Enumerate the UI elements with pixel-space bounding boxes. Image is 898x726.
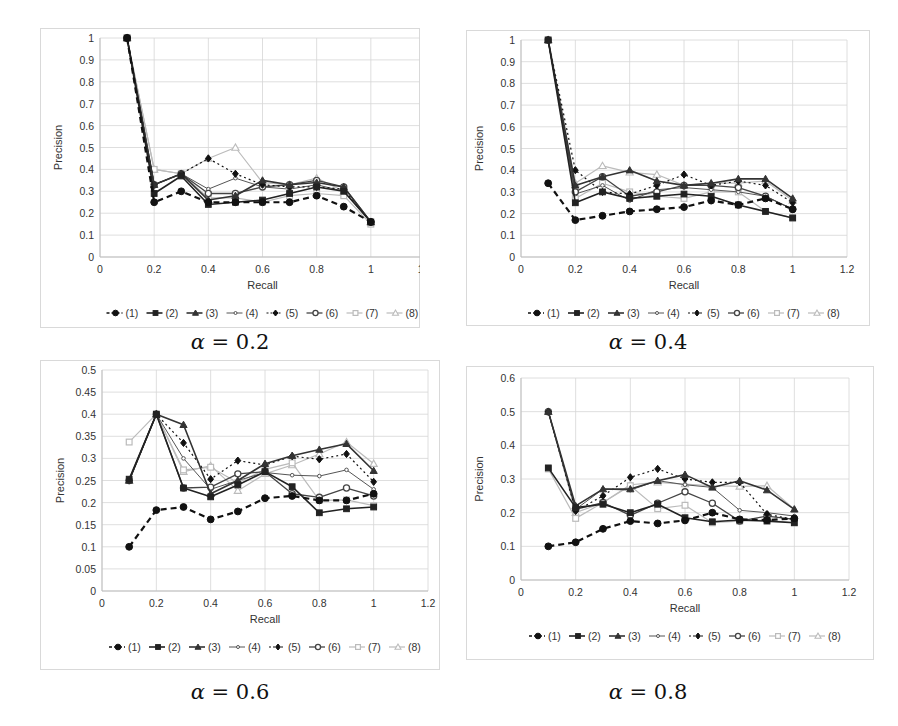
x-tick-label: 0.8 [731, 263, 746, 275]
y-tick-label: 0.5 [500, 143, 515, 155]
x-tick-label: 0 [99, 597, 105, 609]
legend-label: (1) [547, 307, 560, 319]
series-4 [127, 412, 375, 491]
y-tick-label: 0.4 [81, 408, 96, 420]
y-tick-label: 0 [88, 251, 94, 263]
y-tick-label: 0.3 [500, 186, 515, 198]
gridlines [521, 40, 847, 257]
y-tick-label: 0.5 [81, 364, 96, 376]
legend-label: (2) [166, 307, 179, 319]
legend-item-2: (2) [569, 630, 601, 642]
chart-panel-alpha-0-2: 00.10.20.30.40.50.60.70.80.9100.20.40.60… [40, 28, 420, 328]
legend-label: (6) [748, 630, 761, 642]
legend-item-7: (7) [349, 641, 381, 653]
chart-panel-alpha-0-8: 00.10.20.30.40.50.600.20.40.60.811.2Reca… [466, 366, 874, 660]
y-tick-label: 0.1 [81, 541, 96, 553]
x-tick-label: 0 [518, 586, 524, 598]
legend-label: (2) [588, 630, 601, 642]
y-tick-label: 0.05 [76, 563, 97, 575]
legend-item-5: (5) [688, 307, 720, 319]
x-tick-label: 0.2 [568, 263, 583, 275]
y-axis-ticks: 00.050.10.150.20.250.30.350.40.450.5 [76, 364, 97, 597]
legend-item-1: (1) [109, 641, 141, 653]
x-axis-ticks: 00.20.40.60.811.2 [97, 263, 420, 275]
y-tick-label: 0.9 [79, 54, 94, 66]
x-tick-label: 1.2 [840, 263, 855, 275]
legend-label: (8) [827, 307, 840, 319]
y-tick-label: 0.5 [500, 406, 515, 418]
y-tick-label: 0.1 [500, 229, 515, 241]
y-tick-label: 0.7 [500, 99, 515, 111]
legend-label: (4) [668, 630, 681, 642]
legend: (1)(2)(3)(4)(5)(6)(7)(8) [107, 307, 419, 319]
alpha-value: = 0.6 [212, 680, 270, 704]
legend-item-6: (6) [307, 307, 339, 319]
legend-label: (7) [366, 307, 379, 319]
x-tick-label: 0 [97, 263, 103, 275]
y-axis-ticks: 00.10.20.30.40.50.60.70.80.91 [500, 34, 515, 263]
legend-label: (1) [126, 307, 139, 319]
legend-label: (7) [368, 641, 381, 653]
x-tick-label: 1.2 [421, 597, 436, 609]
series-3 [126, 411, 378, 497]
x-tick-label: 0.2 [568, 586, 583, 598]
legend-label: (6) [747, 307, 760, 319]
series-3 [123, 34, 374, 224]
y-tick-label: 0.7 [79, 98, 94, 110]
y-tick-label: 0.2 [79, 207, 94, 219]
legend-item-5: (5) [269, 641, 301, 653]
legend-label: (3) [206, 307, 219, 319]
legend-item-3: (3) [187, 307, 219, 319]
precision-recall-chart: 00.050.10.150.20.250.30.350.40.450.500.2… [40, 360, 440, 670]
alpha-symbol: α [609, 330, 623, 354]
y-tick-label: 0.35 [76, 430, 97, 442]
series-6 [545, 37, 796, 212]
x-tick-label: 1.2 [418, 263, 420, 275]
legend-item-7: (7) [347, 307, 379, 319]
series-6 [124, 35, 374, 225]
x-tick-label: 0.6 [678, 586, 693, 598]
y-tick-label: 0 [90, 585, 96, 597]
y-tick-label: 0.2 [81, 497, 96, 509]
legend-label: (8) [406, 307, 419, 319]
series-4 [125, 36, 372, 224]
legend-item-1: (1) [528, 307, 560, 319]
legend-label: (5) [288, 641, 301, 653]
precision-recall-chart: 00.10.20.30.40.50.600.20.40.60.811.2Reca… [466, 366, 874, 660]
precision-recall-chart: 00.10.20.30.40.50.60.70.80.9100.20.40.60… [40, 28, 420, 328]
gridlines [102, 370, 428, 591]
chart-panel-alpha-0-4: 00.10.20.30.40.50.60.70.80.9100.20.40.60… [466, 30, 870, 326]
legend-item-5: (5) [689, 630, 721, 642]
y-axis-ticks: 00.10.20.30.40.50.60.70.80.91 [79, 32, 94, 263]
y-tick-label: 0.2 [500, 208, 515, 220]
y-tick-label: 0.15 [76, 519, 97, 531]
series-8 [123, 34, 374, 224]
alpha-symbol: α [191, 680, 205, 704]
series-1 [126, 490, 377, 550]
y-axis-title: Precision [473, 456, 485, 501]
y-tick-label: 0.45 [76, 386, 97, 398]
series-8 [126, 411, 378, 494]
x-tick-label: 0.8 [312, 597, 327, 609]
y-tick-label: 0.25 [76, 475, 97, 487]
alpha-symbol: α [609, 680, 623, 704]
legend-item-4: (4) [227, 307, 259, 319]
legend-label: (1) [548, 630, 561, 642]
y-tick-label: 0.4 [500, 439, 515, 451]
alpha-value: = 0.2 [212, 330, 270, 354]
x-tick-label: 0.4 [622, 263, 637, 275]
legend: (1)(2)(3)(4)(5)(6)(7)(8) [109, 641, 421, 653]
x-tick-label: 0 [518, 263, 524, 275]
y-tick-label: 0 [509, 251, 515, 263]
legend-label: (1) [128, 641, 141, 653]
x-axis-title: Recall [247, 279, 278, 291]
x-tick-label: 0.4 [623, 586, 638, 598]
legend-item-3: (3) [189, 641, 221, 653]
legend-label: (4) [248, 641, 261, 653]
legend-label: (7) [787, 307, 800, 319]
y-tick-label: 0.2 [500, 507, 515, 519]
legend-label: (5) [707, 307, 720, 319]
y-tick-label: 0.1 [500, 540, 515, 552]
series-5 [545, 408, 797, 523]
legend-item-2: (2) [147, 307, 179, 319]
